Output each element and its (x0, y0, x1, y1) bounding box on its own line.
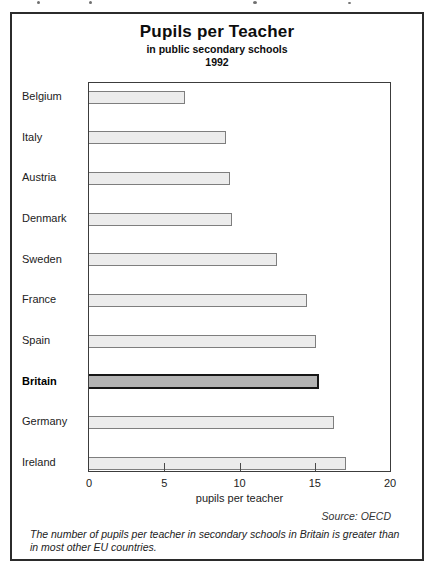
bar (89, 91, 185, 104)
category-label: Germany (22, 415, 86, 427)
bar (89, 416, 334, 429)
bar (89, 457, 346, 470)
chart-subtitle: in public secondary schools (12, 43, 422, 55)
bar (89, 131, 226, 144)
cropped-text-fragment (253, 1, 257, 4)
chart-figure: Pupils per Teacher in public secondary s… (10, 12, 424, 561)
x-tick-label: 10 (233, 477, 245, 489)
x-tick (240, 463, 241, 471)
caption-text: The number of pupils per teacher in seco… (30, 528, 402, 555)
bar (89, 294, 307, 307)
category-label: Ireland (22, 456, 86, 468)
bar (89, 172, 230, 185)
x-tick-label: 20 (384, 477, 396, 489)
x-tick-label: 0 (86, 477, 92, 489)
x-axis-label: pupils per teacher (88, 492, 391, 504)
bar (89, 335, 316, 348)
category-label: Sweden (22, 253, 86, 265)
category-label: Austria (22, 171, 86, 183)
x-tick-label: 15 (309, 477, 321, 489)
page-title: Pupils per Teacher (12, 22, 422, 42)
cropped-text-fragment (37, 1, 40, 4)
cropped-text-fragment (89, 1, 92, 4)
bar (89, 213, 232, 226)
cropped-text-fragment (348, 2, 351, 4)
source-note: Source: OECD (322, 510, 391, 522)
category-label: Italy (22, 131, 86, 143)
chart-canvas: Pupils per Teacher in public secondary s… (12, 14, 422, 559)
scanned-page: Pupils per Teacher in public secondary s… (0, 0, 432, 576)
category-label: Belgium (22, 90, 86, 102)
x-tick-label: 5 (161, 477, 167, 489)
bar-highlight (89, 374, 319, 389)
category-label: Denmark (22, 212, 86, 224)
category-label: Britain (22, 375, 86, 387)
plot-area (88, 82, 391, 472)
x-tick (164, 463, 165, 471)
bar (89, 253, 277, 266)
category-label: Spain (22, 334, 86, 346)
category-label: France (22, 293, 86, 305)
chart-year: 1992 (12, 56, 422, 68)
x-tick (315, 463, 316, 471)
